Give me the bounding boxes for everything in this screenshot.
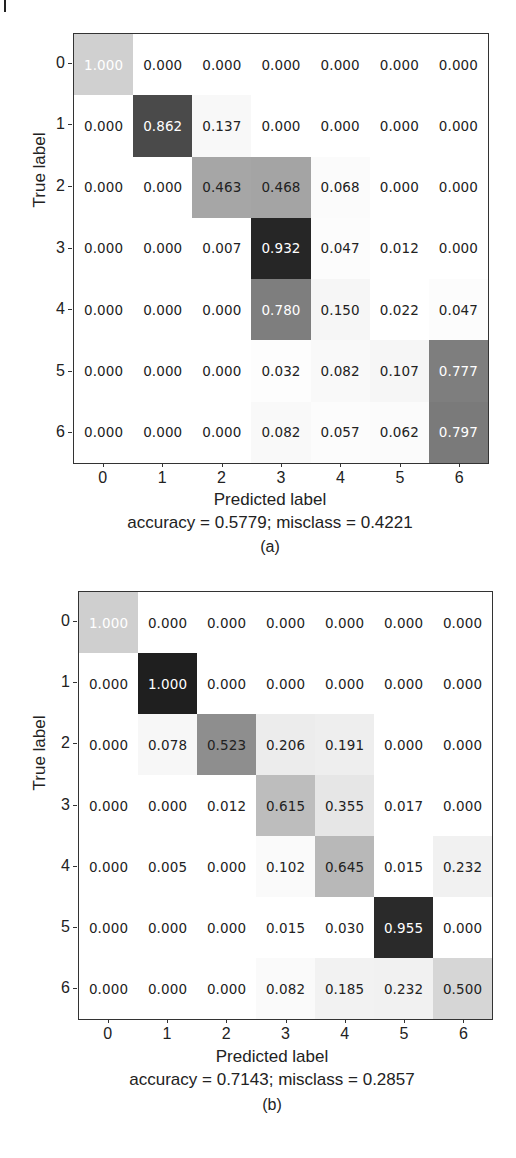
y-tick-label: 2 [54, 734, 70, 752]
matrix-cell: 0.185 [315, 958, 374, 1019]
matrix-cell: 0.078 [138, 714, 197, 775]
x-tick-label: 2 [216, 1025, 236, 1043]
matrix-cell: 0.000 [197, 897, 256, 958]
y-tick-label: 0 [54, 612, 70, 630]
matrix-cell: 0.955 [374, 897, 433, 958]
x-tick-label: 4 [335, 1025, 355, 1043]
matrix-cell: 0.000 [374, 714, 433, 775]
matrix-cell: 0.017 [374, 775, 433, 836]
matrix-cell: 0.645 [315, 836, 374, 897]
x-tick-label: 0 [98, 1025, 118, 1043]
matrix-cell: 0.000 [433, 592, 492, 653]
y-axis-label: True label [30, 713, 50, 793]
matrix-cell: 0.000 [256, 592, 315, 653]
matrix-cell: 0.000 [79, 775, 138, 836]
matrix-cell: 0.000 [197, 653, 256, 714]
y-tick-label: 3 [54, 796, 70, 814]
matrix-cell: 0.232 [374, 958, 433, 1019]
confusion-matrix-b: True label 1.0000.0000.0000.0000.0000.00… [0, 0, 516, 1158]
matrix-cell: 0.000 [138, 592, 197, 653]
matrix-cell: 0.000 [374, 592, 433, 653]
matrix-cell: 0.082 [256, 958, 315, 1019]
matrix-cell: 1.000 [79, 592, 138, 653]
x-tick-label: 6 [453, 1025, 473, 1043]
x-tick-label: 3 [276, 1025, 296, 1043]
matrix-cell: 0.000 [433, 897, 492, 958]
matrix-cell: 0.000 [138, 775, 197, 836]
matrix-cell: 0.206 [256, 714, 315, 775]
matrix-cell: 0.030 [315, 897, 374, 958]
matrix-cell: 0.000 [79, 897, 138, 958]
matrix-cell: 0.615 [256, 775, 315, 836]
matrix-cell: 0.012 [197, 775, 256, 836]
matrix-cell: 0.005 [138, 836, 197, 897]
matrix-cell: 0.000 [315, 653, 374, 714]
matrix-cell: 1.000 [138, 653, 197, 714]
x-tick-label: 5 [394, 1025, 414, 1043]
matrix-cell: 0.000 [79, 714, 138, 775]
y-tick-label: 5 [54, 918, 70, 936]
matrix-cell: 0.000 [433, 653, 492, 714]
matrix-cell: 0.000 [197, 592, 256, 653]
matrix-cell: 0.000 [79, 836, 138, 897]
accuracy-text: accuracy = 0.7143; misclass = 0.2857 [0, 1070, 516, 1090]
x-axis-label: Predicted label [0, 1047, 516, 1067]
matrix-cell: 0.000 [315, 592, 374, 653]
y-tick-label: 6 [54, 979, 70, 997]
matrix-cell: 0.102 [256, 836, 315, 897]
matrix-cell: 0.232 [433, 836, 492, 897]
matrix-cell: 0.000 [433, 775, 492, 836]
matrix-cell: 0.000 [197, 958, 256, 1019]
matrix-cell: 0.000 [79, 653, 138, 714]
y-tick-label: 1 [54, 673, 70, 691]
matrix-cell: 0.000 [197, 836, 256, 897]
y-tick-label: 4 [54, 857, 70, 875]
matrix-cell: 0.000 [138, 958, 197, 1019]
matrix-grid: 1.0000.0000.0000.0000.0000.0000.0000.000… [79, 592, 492, 1019]
matrix-frame: 1.0000.0000.0000.0000.0000.0000.0000.000… [78, 591, 493, 1020]
matrix-cell: 0.000 [433, 714, 492, 775]
x-tick-label: 1 [157, 1025, 177, 1043]
matrix-cell: 0.015 [256, 897, 315, 958]
matrix-cell: 0.355 [315, 775, 374, 836]
matrix-cell: 0.191 [315, 714, 374, 775]
panel-caption: (b) [0, 1096, 516, 1114]
matrix-cell: 0.000 [256, 653, 315, 714]
matrix-cell: 0.500 [433, 958, 492, 1019]
matrix-cell: 0.523 [197, 714, 256, 775]
matrix-cell: 0.000 [374, 653, 433, 714]
matrix-cell: 0.000 [79, 958, 138, 1019]
matrix-cell: 0.000 [138, 897, 197, 958]
matrix-cell: 0.015 [374, 836, 433, 897]
